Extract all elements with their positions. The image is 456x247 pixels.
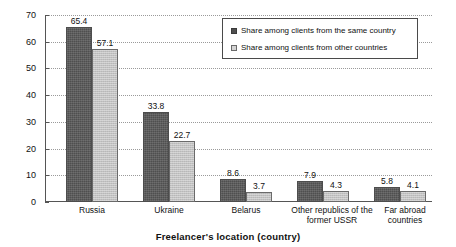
bar-value-label: 65.4 — [71, 17, 88, 26]
bar-value-label: 4.1 — [407, 181, 419, 190]
bar-group-ukraine: 33.8 22.7 — [143, 15, 195, 202]
x-axis-category-labels: Russia Ukraine Belarus Other republics o… — [45, 205, 432, 233]
bar-far-abroad-same-country: 5.8 — [374, 187, 400, 202]
legend-label: Share among clients from other countries — [241, 43, 387, 52]
bar-value-label: 5.8 — [381, 177, 393, 186]
x-axis-title: Freelancer's location (country) — [0, 231, 456, 242]
x-category-line-1: Other republics of the — [291, 205, 372, 215]
legend-label: Share among clients from the same countr… — [241, 26, 396, 35]
bar-ukraine-same-country: 33.8 — [143, 112, 169, 202]
ytick-mark-0 — [45, 202, 49, 203]
y-tick-label-60: 60 — [26, 37, 36, 46]
x-category-russia: Russia — [57, 205, 127, 215]
x-category-line-2: former USSR — [307, 215, 358, 225]
bar-value-label: 3.7 — [253, 182, 265, 191]
y-tick-label-0: 0 — [31, 198, 36, 207]
bar-chart: 70 60 50 40 30 20 10 0 65.4 57.1 33.8 22… — [0, 0, 456, 247]
legend-item-other-countries: Share among clients from other countries — [231, 43, 387, 52]
bar-russia-other-countries: 57.1 — [92, 49, 118, 202]
y-tick-label-50: 50 — [26, 64, 36, 73]
y-tick-label-70: 70 — [26, 11, 36, 20]
legend-item-same-country: Share among clients from the same countr… — [231, 26, 396, 35]
bar-group-russia: 65.4 57.1 — [66, 15, 118, 202]
bar-belarus-other-countries: 3.7 — [246, 192, 272, 202]
y-tick-label-20: 20 — [26, 144, 36, 153]
bar-ukraine-other-countries: 22.7 — [169, 141, 195, 202]
x-category-far-abroad: Far abroad countries — [367, 205, 443, 225]
bar-other-republics-other-countries: 4.3 — [323, 191, 349, 202]
legend: Share among clients from the same countr… — [222, 18, 418, 59]
bar-russia-same-country: 65.4 — [66, 27, 92, 202]
bar-value-label: 33.8 — [148, 102, 165, 111]
y-tick-label-10: 10 — [26, 171, 36, 180]
bar-other-republics-same-country: 7.9 — [297, 181, 323, 202]
x-category-ukraine: Ukraine — [134, 205, 204, 215]
bar-value-label: 7.9 — [304, 171, 316, 180]
legend-swatch-icon — [231, 28, 237, 34]
y-axis-labels: 70 60 50 40 30 20 10 0 — [0, 15, 42, 202]
y-tick-label-30: 30 — [26, 117, 36, 126]
bar-value-label: 8.6 — [227, 169, 239, 178]
y-tick-label-40: 40 — [26, 91, 36, 100]
bar-value-label: 22.7 — [174, 131, 191, 140]
bar-value-label: 4.3 — [330, 181, 342, 190]
bar-far-abroad-other-countries: 4.1 — [400, 191, 426, 202]
legend-swatch-icon — [231, 45, 237, 51]
x-category-belarus: Belarus — [211, 205, 281, 215]
bar-value-label: 57.1 — [97, 39, 114, 48]
bar-belarus-same-country: 8.6 — [220, 179, 246, 202]
